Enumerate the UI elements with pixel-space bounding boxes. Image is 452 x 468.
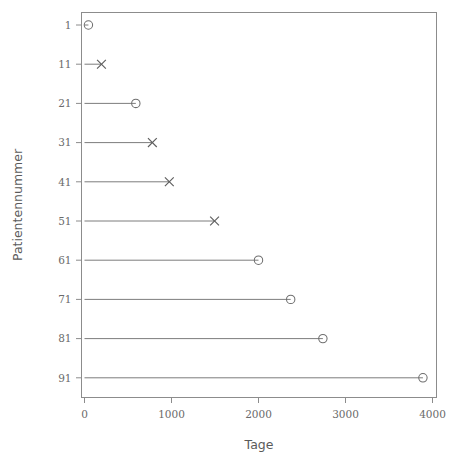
- patient-segment: [85, 60, 106, 69]
- x-axis-tick-label: 2000: [245, 408, 272, 420]
- x-axis-tick-label: 4000: [419, 408, 446, 420]
- y-axis-tick-label: 31: [58, 136, 71, 148]
- x-axis-title: Tage: [244, 437, 274, 452]
- patient-segment: [85, 177, 174, 186]
- patient-segment: [85, 374, 428, 382]
- chart-canvas: 01000200030004000 1112131415161718191 Ta…: [0, 0, 452, 468]
- patient-segment: [85, 217, 219, 226]
- y-axis-tick-label: 51: [58, 215, 71, 227]
- y-axis-tick-label: 81: [58, 332, 71, 344]
- y-axis-tick-label: 71: [58, 293, 71, 305]
- y-axis-tick-label: 1: [65, 19, 72, 31]
- x-axis-tick-label: 1000: [158, 408, 185, 420]
- x-axis-tick-group: [85, 398, 433, 404]
- y-axis-tick-label: 11: [58, 58, 71, 70]
- patient-segment: [85, 334, 328, 342]
- patient-segment: [85, 99, 141, 107]
- patient-segment: [85, 295, 295, 303]
- y-axis-tick-group: [76, 25, 82, 378]
- y-axis-tick-label: 41: [58, 176, 71, 188]
- patient-segment: [85, 138, 157, 147]
- plot-frame: [82, 13, 437, 398]
- x-axis-tick-label: 0: [81, 408, 88, 420]
- x-axis-tick-labels: 01000200030004000: [81, 408, 446, 420]
- y-axis-tick-label: 21: [58, 97, 71, 109]
- patient-segment: [84, 21, 92, 29]
- y-axis-tick-label: 91: [58, 372, 71, 384]
- x-axis-tick-label: 3000: [332, 408, 359, 420]
- y-axis-tick-labels: 1112131415161718191: [58, 19, 71, 384]
- y-axis-title: Patientennummer: [10, 148, 25, 261]
- patient-segments-group: [84, 21, 427, 382]
- patient-segment: [85, 256, 263, 264]
- survival-time-chart: 01000200030004000 1112131415161718191 Ta…: [0, 0, 452, 468]
- y-axis-tick-label: 61: [58, 254, 71, 266]
